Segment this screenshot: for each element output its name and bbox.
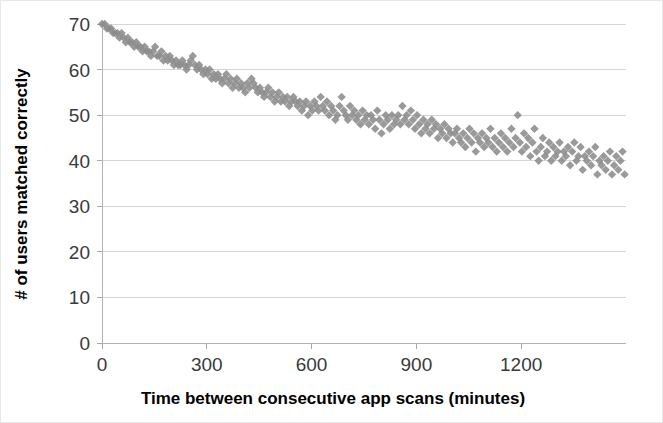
- y-tick-label: 50: [69, 105, 90, 126]
- data-point-marker: [591, 143, 599, 151]
- data-point-marker: [526, 152, 534, 160]
- data-point-marker: [316, 93, 324, 101]
- y-tick-label: 70: [69, 14, 90, 35]
- data-point-marker: [373, 106, 381, 114]
- x-tick-labels-group: 03006009001200: [97, 354, 543, 375]
- x-tick-label: 300: [191, 354, 223, 375]
- data-point-marker: [593, 170, 601, 178]
- data-point-marker: [566, 161, 574, 169]
- data-point-marker: [486, 125, 494, 133]
- data-points-group: [98, 20, 629, 179]
- scatter-chart: 010203040506070 03006009001200 Time betw…: [0, 0, 663, 423]
- y-tick-label: 40: [69, 151, 90, 172]
- data-point-marker: [620, 170, 628, 178]
- y-tick-label: 20: [69, 242, 90, 263]
- y-tick-label: 30: [69, 196, 90, 217]
- data-point-marker: [534, 157, 542, 165]
- axis-lines-group: [102, 24, 626, 343]
- data-point-marker: [377, 129, 385, 137]
- x-tick-label: 1200: [500, 354, 542, 375]
- data-point-marker: [576, 143, 584, 151]
- data-point-marker: [608, 170, 616, 178]
- data-point-marker: [606, 147, 614, 155]
- y-tick-labels-group: 010203040506070: [69, 14, 90, 354]
- data-point-marker: [371, 125, 379, 133]
- data-point-marker: [618, 147, 626, 155]
- data-point-marker: [555, 138, 563, 146]
- chart-canvas: 010203040506070 03006009001200 Time betw…: [1, 1, 663, 423]
- tickmarks-group: [97, 24, 521, 349]
- data-point-marker: [514, 111, 522, 119]
- data-point-marker: [570, 138, 578, 146]
- data-point-marker: [578, 166, 586, 174]
- x-tick-label: 900: [401, 354, 433, 375]
- data-point-marker: [539, 134, 547, 142]
- data-point-marker: [472, 147, 480, 155]
- data-point-marker: [337, 93, 345, 101]
- y-tick-label: 60: [69, 60, 90, 81]
- y-tick-label: 0: [79, 333, 90, 354]
- data-point-marker: [507, 125, 515, 133]
- data-point-marker: [449, 138, 457, 146]
- y-axis-title: # of users matched correctly: [12, 68, 31, 300]
- y-tick-label: 10: [69, 287, 90, 308]
- x-axis-title: Time between consecutive app scans (minu…: [141, 389, 525, 408]
- data-point-marker: [530, 125, 538, 133]
- x-tick-label: 0: [97, 354, 108, 375]
- data-point-marker: [398, 102, 406, 110]
- x-tick-label: 600: [296, 354, 328, 375]
- gridlines-group: [102, 24, 626, 343]
